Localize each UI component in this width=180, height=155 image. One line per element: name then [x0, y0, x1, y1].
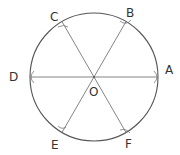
label-F: F — [125, 137, 132, 151]
label-A: A — [165, 63, 174, 77]
label-O: O — [89, 85, 98, 99]
circle-hexagon-diagram: A B C D E F O — [0, 0, 180, 155]
label-E: E — [51, 138, 59, 152]
center-point — [93, 76, 95, 78]
label-D: D — [9, 70, 18, 84]
label-B: B — [126, 6, 134, 20]
label-C: C — [50, 10, 58, 24]
